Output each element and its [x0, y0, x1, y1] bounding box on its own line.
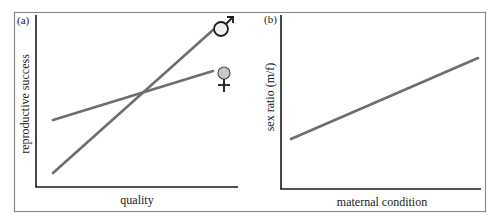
figure-frame: [15, 13, 486, 212]
male-symbol-icon: [214, 17, 233, 36]
panel-a: (a) quality reproductive success: [17, 14, 238, 207]
panel-b-x-label: maternal condition: [337, 195, 427, 209]
female-line: [53, 71, 213, 120]
panel-b-tag: (b): [264, 13, 277, 26]
panel-a-y-label: reproductive success: [18, 54, 32, 154]
panel-a-x-label: quality: [120, 193, 153, 207]
panel-b-y-label: sex ratio (m/f): [263, 63, 277, 132]
sex-ratio-line: [291, 58, 478, 139]
figure: (a) quality reproductive success (b): [0, 0, 498, 224]
panel-b: (b) maternal condition sex ratio (m/f): [263, 13, 481, 209]
male-line: [53, 30, 213, 173]
female-symbol-icon: [218, 67, 230, 92]
panel-a-tag: (a): [17, 14, 30, 27]
